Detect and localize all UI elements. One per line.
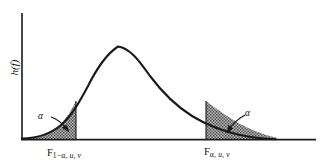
alpha-right-label: α xyxy=(245,109,250,119)
x-label-right-subscript-params: u, v xyxy=(218,150,230,159)
alpha-left-label: α xyxy=(38,112,43,122)
x-label-left-subscript-params: u, v xyxy=(70,151,82,160)
plot-canvas xyxy=(0,0,330,168)
x-axis-label-lower-critical-value: F1−α, u, v xyxy=(47,148,81,160)
upper-tail-shaded-region xyxy=(206,101,276,139)
y-axis-label: h(f) xyxy=(9,48,20,88)
x-label-left-subscript-main: 1−α xyxy=(53,151,66,160)
f-distribution-figure: h(f) α α F1−α, u, v Fα, u, v xyxy=(0,0,330,168)
x-axis-label-upper-critical-value: Fα, u, v xyxy=(204,147,230,159)
